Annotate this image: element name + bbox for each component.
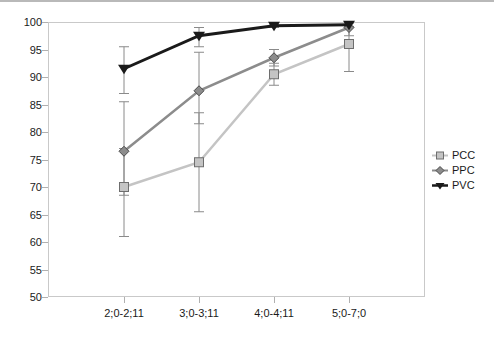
data-point	[270, 70, 279, 79]
data-point	[118, 65, 130, 75]
legend-marker-diamond-icon	[432, 165, 448, 176]
legend-marker-triangle-icon	[432, 180, 448, 191]
data-point	[345, 40, 354, 49]
data-point	[269, 53, 279, 63]
legend-item-pvc: PVC	[432, 179, 475, 191]
legend-label-ppc: PPC	[452, 164, 475, 176]
legend-marker-square-icon	[432, 150, 448, 161]
error-bars-pcc	[119, 28, 354, 237]
series-pvc	[118, 21, 355, 75]
chart-container: 505560657075808590951002;0-2;113;0-3;114…	[0, 0, 494, 341]
chart-legend: PCC PPC PVC	[432, 149, 475, 191]
legend-item-ppc: PPC	[432, 164, 475, 176]
error-bars-pvc	[119, 23, 354, 93]
data-point	[120, 183, 129, 192]
error-bars-ppc	[119, 22, 354, 195]
legend-label-pcc: PCC	[452, 149, 475, 161]
series-pcc	[120, 40, 354, 192]
series-layer	[0, 0, 494, 341]
data-point	[195, 158, 204, 167]
series-ppc	[119, 23, 354, 157]
legend-item-pcc: PCC	[432, 149, 475, 161]
legend-label-pvc: PVC	[452, 179, 475, 191]
